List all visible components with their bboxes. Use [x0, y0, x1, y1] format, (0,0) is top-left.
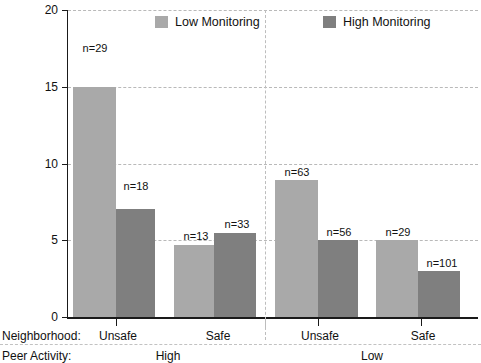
y-tick-label-0: 0	[0, 311, 58, 323]
peer-activity-label-high: High	[140, 350, 196, 362]
bar-low-unsafe-low	[275, 180, 318, 317]
bar-label-low-safe-high: n=13	[171, 231, 221, 242]
category-row-divider	[0, 344, 481, 345]
bar-label-high-unsafe-high: n=18	[111, 181, 161, 192]
bar-label-high-safe-high: n=33	[212, 219, 262, 230]
bar-high-unsafe-high	[116, 209, 155, 317]
y-tick-mark-0	[62, 317, 68, 318]
neighborhood-label-safe-low: Safe	[395, 330, 451, 342]
y-tick-label-10: 10	[0, 158, 58, 170]
x-tick-mark-2	[318, 319, 319, 326]
x-tick-mark-center	[265, 319, 267, 327]
bar-low-safe-high	[174, 245, 214, 317]
y-tick-label-20: 20	[0, 4, 58, 16]
bar-label-high-unsafe-low: n=56	[314, 227, 364, 238]
peer-activity-row-title: Peer Activity:	[2, 350, 71, 362]
peer-activity-label-low: Low	[344, 350, 400, 362]
bar-label-low-unsafe-low: n=63	[272, 167, 322, 178]
peer-activity-separator	[265, 10, 266, 340]
bar-low-safe-low	[376, 240, 418, 317]
bar-label-low-safe-low: n=29	[373, 227, 423, 238]
neighborhood-row-title: Neighborhood:	[2, 330, 81, 342]
bar-label-high-safe-low: n=101	[415, 258, 469, 269]
bar-low-unsafe-high	[73, 87, 116, 317]
bar-label-low-unsafe-high: n=29	[70, 43, 120, 54]
neighborhood-label-unsafe-high: Unsafe	[90, 330, 146, 342]
neighborhood-label-unsafe-low: Unsafe	[292, 330, 348, 342]
x-axis-line	[67, 317, 478, 319]
bar-high-safe-high	[214, 233, 256, 317]
bar-high-safe-low	[418, 271, 460, 317]
x-tick-mark-3	[421, 319, 422, 326]
plot-area	[68, 10, 478, 317]
x-tick-mark-1	[116, 319, 117, 326]
y-tick-label-5: 5	[0, 234, 58, 246]
y-tick-label-15: 15	[0, 81, 58, 93]
bar-high-unsafe-low	[318, 240, 358, 317]
neighborhood-label-safe-high: Safe	[190, 330, 246, 342]
